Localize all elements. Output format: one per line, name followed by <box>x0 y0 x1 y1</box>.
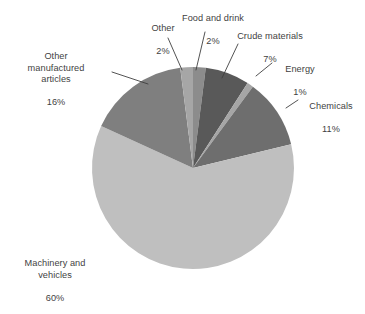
pie-label-other-manufactured-articles: Other manufactured articles 16% <box>4 40 108 120</box>
pie-label-name: Machinery and vehicles <box>2 258 108 281</box>
pie-label-value: 16% <box>4 97 108 108</box>
leader-line-other-manufactured <box>112 72 148 84</box>
pie-label-chemicals: Chemicals 11% <box>300 90 362 147</box>
pie-label-name: Chemicals <box>300 101 362 112</box>
pie-chart: Other manufactured articles 16% Other 2%… <box>0 0 365 314</box>
pie-label-machinery-and-vehicles: Machinery and vehicles 60% <box>2 247 108 314</box>
pie-label-value: 11% <box>300 124 362 135</box>
pie-slices <box>92 67 294 269</box>
pie-label-name: Energy <box>274 64 326 75</box>
pie-label-name: Other manufactured articles <box>4 51 108 85</box>
pie-label-name: Crude materials <box>225 31 315 42</box>
pie-label-value: 60% <box>2 293 108 304</box>
